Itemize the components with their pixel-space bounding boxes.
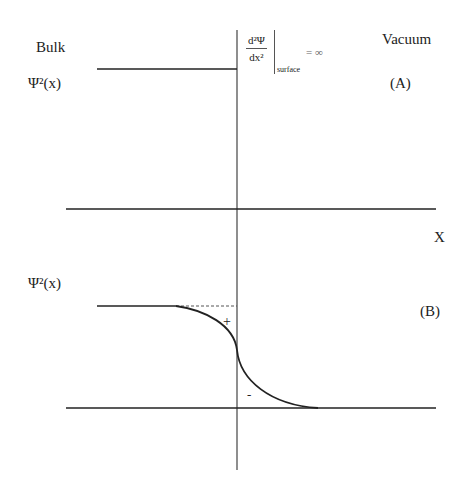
minus-sign: - (247, 388, 251, 401)
equals-infinity: = ∞ (306, 47, 323, 58)
psi-squared-label-b: Ψ²(x) (28, 276, 61, 291)
evaluation-bar (274, 30, 275, 74)
panel-a-label: (A) (390, 76, 411, 91)
fraction-denominator: dx² (246, 49, 267, 63)
fraction-numerator: d²Ψ (246, 34, 267, 49)
second-derivative-fraction: d²Ψ dx² (246, 34, 267, 63)
bulk-label: Bulk (36, 40, 65, 55)
plus-sign: + (223, 315, 231, 329)
panel-b-label: (B) (420, 304, 440, 319)
surface-subscript: surface (277, 66, 300, 74)
vacuum-label: Vacuum (382, 32, 431, 47)
diagram-lines (0, 0, 466, 488)
diagram-canvas: Bulk Vacuum Ψ²(x) (A) X Ψ²(x) (B) + - d²… (0, 0, 466, 488)
psi-squared-label-a: Ψ²(x) (28, 76, 61, 91)
x-axis-label: X (434, 230, 445, 245)
